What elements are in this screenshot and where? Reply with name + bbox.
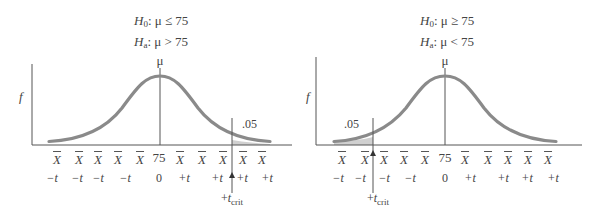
x-bar-label: X	[53, 151, 61, 166]
t-value-label: 0	[442, 171, 448, 186]
x-bar-label: X	[198, 151, 206, 166]
mean-label: μ	[157, 53, 164, 69]
mean-value-label: 75	[153, 150, 166, 166]
x-bar-label: X	[176, 151, 184, 166]
t-value-label: −t	[378, 171, 389, 186]
t-value-label: +t	[521, 171, 532, 186]
t-value-label: −t	[119, 171, 130, 186]
x-bar-label: X	[380, 151, 388, 166]
left-tailed-test-panel: H0: μ ≥ 75 Ha: μ < 75 f μ .05 X X X X X …	[298, 0, 598, 211]
t-value-label: −t	[404, 171, 415, 186]
x-bar-label: X	[94, 151, 102, 166]
x-bar-label: X	[361, 151, 369, 166]
t-value-label: −t	[71, 171, 82, 186]
critical-arrow-icon	[229, 172, 235, 178]
alpha-label: .05	[344, 117, 359, 132]
t-value-label: +t	[178, 171, 189, 186]
right-tailed-test-panel: H0: μ ≤ 75 Ha: μ > 75 f μ .05 X X X X X …	[0, 0, 300, 211]
x-bar-label: X	[239, 151, 247, 166]
x-bar-label: X	[421, 151, 429, 166]
x-bar-label: X	[400, 151, 408, 166]
x-bar-label: X	[75, 151, 83, 166]
x-bar-label: X	[461, 151, 469, 166]
t-value-label: +t	[497, 171, 508, 186]
mean-value-label: 75	[439, 150, 452, 166]
t-value-label: +t	[211, 171, 222, 186]
t-value-label: −t	[332, 171, 343, 186]
t-value-label: −t	[92, 171, 103, 186]
t-critical-label: +tcrit	[367, 191, 389, 207]
critical-arrow-icon	[370, 150, 376, 156]
x-bar-label: X	[114, 151, 122, 166]
t-value-label: +t	[236, 171, 247, 186]
t-value-label: +t	[547, 171, 558, 186]
distribution-plot	[0, 0, 300, 211]
t-value-label: −t	[46, 171, 57, 186]
x-bar-label: X	[544, 151, 552, 166]
x-bar-label: X	[484, 151, 492, 166]
t-value-label: −t	[354, 171, 365, 186]
t-value-label: +t	[261, 171, 272, 186]
x-bar-label: X	[524, 151, 532, 166]
x-bar-label: X	[136, 151, 144, 166]
x-bar-label: X	[219, 151, 227, 166]
t-critical-label: +tcrit	[221, 191, 243, 207]
x-bar-label: X	[258, 151, 266, 166]
alpha-label: .05	[242, 117, 257, 132]
x-bar-label: X	[338, 151, 346, 166]
y-axis-label: f	[19, 89, 23, 105]
t-value-label: +t	[464, 171, 475, 186]
mean-label: μ	[442, 53, 449, 69]
y-axis-label: f	[306, 89, 310, 105]
x-bar-label: X	[504, 151, 512, 166]
t-value-label: 0	[156, 171, 162, 186]
